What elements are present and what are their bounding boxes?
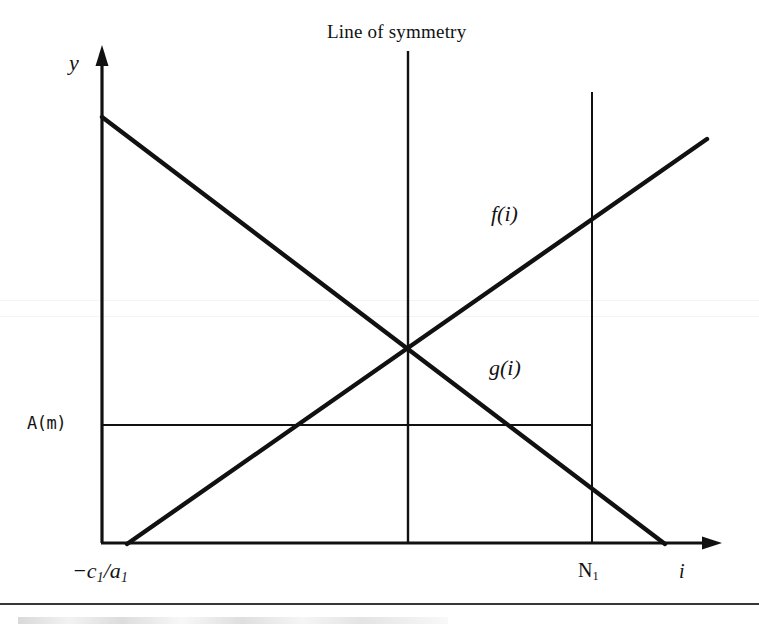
y-axis-label: y [69,52,79,74]
curve-label-g: g(i) [489,357,521,379]
x-tick-n1-base: N [578,559,592,581]
x-tick-left-base: −c [72,558,97,583]
y-tick-label-am: A(m) [27,415,66,432]
page-footer-smudge [18,617,448,624]
figure-title: Line of symmetry [327,22,466,41]
x-tick-left-mid: /a [104,558,121,583]
x-tick-label-left: −c1/a1 [72,560,128,584]
x-tick-left-sub-2: 1 [121,570,128,585]
figure-canvas: Line of symmetry y i f(i) g(i) A(m) −c1/… [0,0,759,627]
x-tick-left-sub-1: 1 [97,570,104,585]
x-tick-label-n1: N1 [578,560,599,583]
curve-g [102,117,665,544]
page-rule [0,603,759,605]
x-tick-n1-sub: 1 [592,569,598,583]
curve-label-f: f(i) [491,203,518,225]
plot-drawing [0,0,759,627]
x-axis-label: i [679,561,685,581]
x-axis [101,537,722,550]
